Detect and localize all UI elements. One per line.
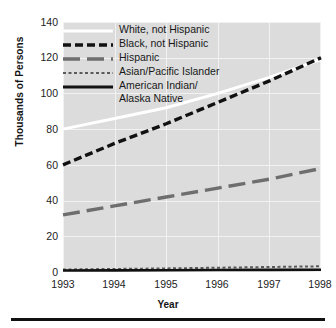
legend-item-amerindian: American Indian/ — [63, 78, 263, 92]
legend-item-asian: Asian/Pacific Islander — [63, 64, 263, 78]
x-axis-label: Year — [0, 299, 336, 310]
y-axis-label: Thousands of Persons — [14, 17, 25, 167]
y-tick-40: 40 — [28, 194, 58, 206]
footer-rule — [11, 318, 325, 321]
legend-label-asian: Asian/Pacific Islander — [119, 65, 219, 77]
y-tick-20: 20 — [28, 230, 58, 242]
y-tick-0: 0 — [28, 266, 58, 278]
x-tick-1995: 1995 — [146, 278, 186, 290]
legend-label-black: Black, not Hispanic — [119, 37, 208, 49]
legend-item-black: Black, not Hispanic — [63, 36, 263, 50]
legend-item-white: White, not Hispanic — [63, 22, 263, 36]
chart-figure: Thousands of Persons 140 120 100 80 60 4… — [0, 0, 336, 328]
y-tick-60: 60 — [28, 159, 58, 171]
legend-swatch-hispanic — [63, 51, 113, 63]
legend-label-amerindian: American Indian/ — [119, 79, 198, 91]
x-tick-1994: 1994 — [94, 278, 134, 290]
legend-swatch-asian — [63, 65, 113, 77]
y-tick-100: 100 — [28, 87, 58, 99]
chart-legend: White, not Hispanic Black, not Hispanic … — [63, 22, 263, 104]
series-line-4 — [63, 270, 321, 271]
legend-swatch-white — [63, 23, 113, 35]
legend-label-hispanic: Hispanic — [119, 51, 159, 63]
series-line-2 — [63, 168, 321, 214]
legend-swatch-black — [63, 37, 113, 49]
legend-label-white: White, not Hispanic — [119, 23, 209, 35]
y-tick-80: 80 — [28, 123, 58, 135]
x-tick-1997: 1997 — [249, 278, 289, 290]
x-tick-1998: 1998 — [300, 278, 336, 290]
legend-label-amerindian-line2: Alaska Native — [119, 92, 263, 104]
y-tick-140: 140 — [28, 16, 58, 28]
x-tick-1996: 1996 — [197, 278, 237, 290]
legend-item-hispanic: Hispanic — [63, 50, 263, 64]
x-tick-1993: 1993 — [43, 278, 83, 290]
y-tick-120: 120 — [28, 51, 58, 63]
legend-swatch-amerindian — [63, 79, 113, 91]
